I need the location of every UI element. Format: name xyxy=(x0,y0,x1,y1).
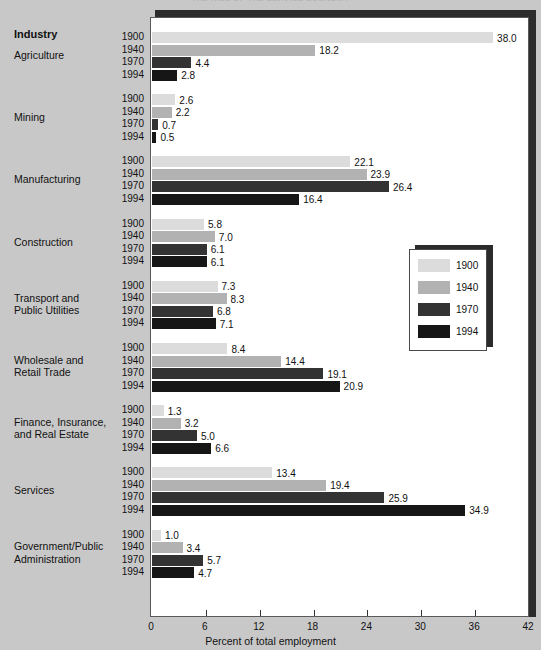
legend-item-1940: 1940 xyxy=(418,281,482,294)
year-label-1970: 1970 xyxy=(110,430,144,440)
bar-value-label: 8.3 xyxy=(231,294,245,305)
year-label-1900: 1900 xyxy=(110,343,144,353)
year-label-1940: 1940 xyxy=(110,418,144,428)
bar-construction-1940 xyxy=(152,231,215,242)
industry-column-header: Industry xyxy=(14,28,57,40)
year-label-1900: 1900 xyxy=(110,467,144,477)
bar-value-label: 19.1 xyxy=(327,369,346,380)
bar-value-label: 0.5 xyxy=(160,132,174,143)
year-label-1940: 1940 xyxy=(110,231,144,241)
bar-government-public-administration-1900 xyxy=(152,530,161,541)
x-axis-tick-label: 30 xyxy=(415,621,426,632)
year-label-1994: 1994 xyxy=(110,132,144,142)
year-label-1970: 1970 xyxy=(110,57,144,67)
year-label-1900: 1900 xyxy=(110,32,144,42)
year-label-1994: 1994 xyxy=(110,567,144,577)
plot-shadow-right xyxy=(528,10,536,617)
x-axis-tick-label: 42 xyxy=(522,621,533,632)
bar-value-label: 1.0 xyxy=(165,530,179,541)
bar-transport-and-public-utilities-1940 xyxy=(152,293,227,304)
legend-label-1940: 1940 xyxy=(456,282,478,293)
year-label-1900: 1900 xyxy=(110,530,144,540)
x-axis-title: Percent of total employment xyxy=(0,635,541,647)
bar-value-label: 18.2 xyxy=(319,45,338,56)
bar-manufacturing-1970 xyxy=(152,181,389,192)
bar-government-public-administration-1940 xyxy=(152,542,183,553)
year-label-1994: 1994 xyxy=(110,256,144,266)
bar-value-label: 5.8 xyxy=(208,219,222,230)
legend-label-1900: 1900 xyxy=(456,260,478,271)
year-label-1940: 1940 xyxy=(110,107,144,117)
legend-label-1994: 1994 xyxy=(456,326,478,337)
bar-services-1994 xyxy=(152,505,465,516)
bar-finance-insurance-and-real-estate-1900 xyxy=(152,405,164,416)
year-label-1970: 1970 xyxy=(110,492,144,502)
cut-off-title: THE RISE OF THE SERVICE ECONOMY xyxy=(0,0,541,3)
x-axis-tick-label: 24 xyxy=(361,621,372,632)
chart-legend: 1900194019701994 xyxy=(409,249,487,351)
legend-swatch-1970 xyxy=(418,303,450,316)
bar-value-label: 20.9 xyxy=(344,381,363,392)
bar-value-label: 38.0 xyxy=(497,33,516,44)
legend-swatch-1994 xyxy=(418,325,450,338)
year-label-1940: 1940 xyxy=(110,480,144,490)
bar-value-label: 19.4 xyxy=(330,480,349,491)
year-label-1970: 1970 xyxy=(110,119,144,129)
bar-value-label: 26.4 xyxy=(393,182,412,193)
bar-construction-1900 xyxy=(152,219,204,230)
bar-value-label: 25.9 xyxy=(388,493,407,504)
x-axis-tick xyxy=(421,610,422,616)
x-axis-tick xyxy=(206,610,207,616)
bar-mining-1994 xyxy=(152,132,156,143)
x-axis-tick-label: 12 xyxy=(253,621,264,632)
year-label-1970: 1970 xyxy=(110,368,144,378)
bar-government-public-administration-1994 xyxy=(152,567,194,578)
year-label-1940: 1940 xyxy=(110,45,144,55)
bar-value-label: 5.0 xyxy=(201,431,215,442)
year-label-1940: 1940 xyxy=(110,356,144,366)
bar-value-label: 7.0 xyxy=(219,232,233,243)
bar-agriculture-1994 xyxy=(152,70,177,81)
year-label-1900: 1900 xyxy=(110,281,144,291)
legend-swatch-1900 xyxy=(418,259,450,272)
bar-services-1940 xyxy=(152,480,326,491)
bar-value-label: 7.3 xyxy=(222,281,236,292)
legend-item-1994: 1994 xyxy=(418,325,482,338)
year-label-1994: 1994 xyxy=(110,505,144,515)
year-label-1970: 1970 xyxy=(110,181,144,191)
bar-value-label: 14.4 xyxy=(285,356,304,367)
bar-value-label: 2.2 xyxy=(176,107,190,118)
bar-value-label: 16.4 xyxy=(303,194,322,205)
bar-manufacturing-1900 xyxy=(152,156,350,167)
year-label-1900: 1900 xyxy=(110,405,144,415)
x-axis-tick xyxy=(475,610,476,616)
bar-value-label: 3.4 xyxy=(187,543,201,554)
bar-manufacturing-1994 xyxy=(152,194,299,205)
bar-value-label: 23.9 xyxy=(371,169,390,180)
bar-wholesale-and-retail-trade-1970 xyxy=(152,368,323,379)
year-label-1900: 1900 xyxy=(110,219,144,229)
bar-construction-1970 xyxy=(152,244,207,255)
legend-item-1970: 1970 xyxy=(418,303,482,316)
bar-mining-1940 xyxy=(152,107,172,118)
bar-value-label: 4.7 xyxy=(198,568,212,579)
bar-value-label: 1.3 xyxy=(168,406,182,417)
year-label-1900: 1900 xyxy=(110,94,144,104)
bar-transport-and-public-utilities-1900 xyxy=(152,281,218,292)
year-label-1940: 1940 xyxy=(110,293,144,303)
bar-agriculture-1940 xyxy=(152,45,315,56)
bar-value-label: 6.1 xyxy=(211,257,225,268)
bar-value-label: 7.1 xyxy=(220,319,234,330)
bar-value-label: 3.2 xyxy=(185,418,199,429)
legend-swatch-1940 xyxy=(418,281,450,294)
year-label-1994: 1994 xyxy=(110,443,144,453)
bar-value-label: 5.7 xyxy=(207,555,221,566)
x-axis-tick-label: 0 xyxy=(148,621,154,632)
bar-wholesale-and-retail-trade-1900 xyxy=(152,343,227,354)
bar-transport-and-public-utilities-1994 xyxy=(152,318,216,329)
bar-mining-1970 xyxy=(152,119,158,130)
year-label-1994: 1994 xyxy=(110,381,144,391)
year-label-1940: 1940 xyxy=(110,542,144,552)
x-axis-tick xyxy=(314,610,315,616)
year-label-1994: 1994 xyxy=(110,318,144,328)
